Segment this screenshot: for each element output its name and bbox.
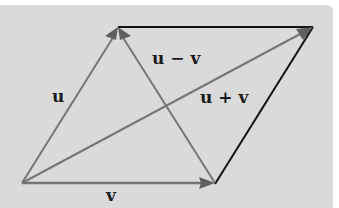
- vector-diagram: [0, 0, 339, 208]
- label-u: u: [52, 88, 64, 105]
- label-v: v: [106, 187, 116, 204]
- arrowhead-u-plus-v-icon: [296, 27, 313, 40]
- label-u-plus-v: u + v: [200, 89, 248, 106]
- arrowhead-u-minus-v-icon: [118, 27, 131, 40]
- label-u-minus-v: u − v: [152, 50, 200, 67]
- vector-u: [22, 36, 114, 183]
- arrowhead-u-icon: [105, 27, 118, 40]
